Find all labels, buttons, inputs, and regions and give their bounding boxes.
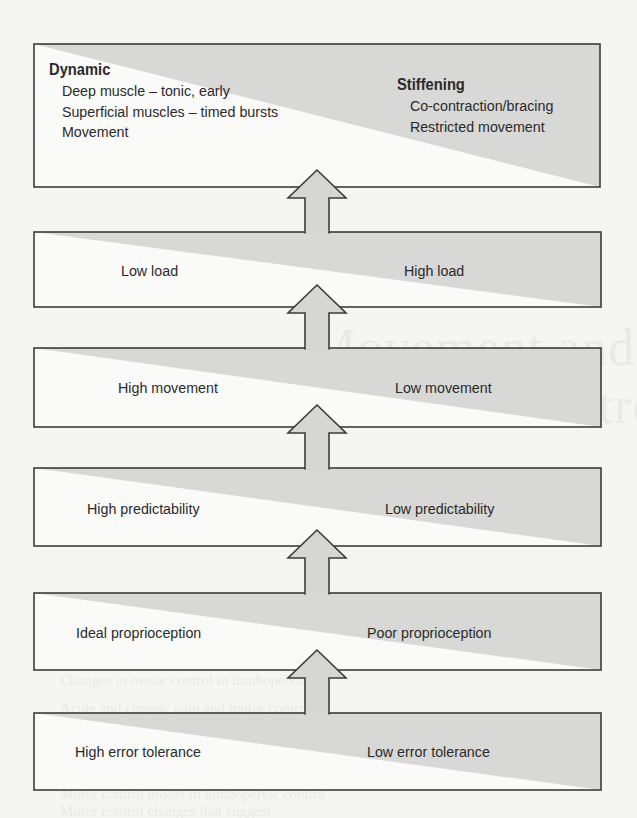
row-1-left-label: Low load xyxy=(121,263,178,279)
row-5-right-label: Low error tolerance xyxy=(367,744,490,760)
row-2-left-label: High movement xyxy=(118,380,218,396)
stiffening-title: Stiffening xyxy=(397,76,465,93)
dynamic-line: Movement xyxy=(49,124,278,140)
row-4-left-label: Ideal proprioception xyxy=(76,625,201,641)
dynamic-group: Dynamic Deep muscle – tonic, early Super… xyxy=(49,62,278,140)
row-5-left-label: High error tolerance xyxy=(75,744,201,760)
row-1-right-label: High load xyxy=(404,263,464,279)
dynamic-line: Superficial muscles – timed bursts xyxy=(49,104,278,120)
dynamic-title: Dynamic xyxy=(49,61,110,78)
stiffening-line: Restricted movement xyxy=(397,119,553,135)
row-2-right-label: Low movement xyxy=(395,380,492,396)
row-3-right-label: Low predictability xyxy=(385,501,494,517)
stiffening-line: Co-contraction/bracing xyxy=(397,98,553,114)
row-3-left-label: High predictability xyxy=(87,501,200,517)
row-4-right-label: Poor proprioception xyxy=(367,625,491,641)
dynamic-line: Deep muscle – tonic, early xyxy=(49,83,278,99)
stiffening-group: Stiffening Co-contraction/bracing Restri… xyxy=(397,77,553,134)
